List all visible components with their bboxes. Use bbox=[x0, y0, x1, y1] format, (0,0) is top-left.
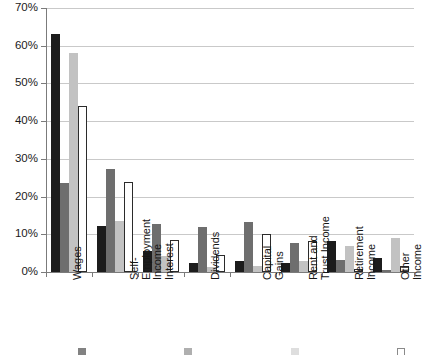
bar-group bbox=[230, 8, 276, 272]
y-tick-label: 0% bbox=[0, 266, 38, 278]
bar-group bbox=[184, 8, 230, 272]
x-category-label: Capital Gains bbox=[262, 246, 285, 280]
bar bbox=[189, 263, 198, 272]
x-category-label: Wages bbox=[72, 246, 84, 280]
legend-swatch bbox=[397, 348, 405, 355]
x-category-label: Retirement Income bbox=[354, 226, 377, 280]
bar bbox=[198, 227, 207, 272]
bar bbox=[382, 270, 391, 272]
bar bbox=[290, 243, 299, 272]
chart-legend bbox=[78, 348, 408, 355]
y-tick-label: 60% bbox=[0, 40, 38, 52]
legend-item bbox=[291, 348, 302, 355]
bar bbox=[60, 183, 69, 272]
legend-item bbox=[78, 348, 89, 355]
x-tick-mark bbox=[184, 272, 185, 277]
x-category-label: Rent and Trust Income bbox=[308, 216, 331, 280]
bar bbox=[106, 169, 115, 272]
x-category-label: Other Income bbox=[400, 244, 423, 280]
bar bbox=[115, 221, 124, 272]
bar-group bbox=[46, 8, 92, 272]
y-tick-label: 50% bbox=[0, 77, 38, 89]
bar bbox=[235, 261, 244, 272]
legend-item bbox=[184, 348, 195, 355]
legend-swatch bbox=[291, 348, 299, 355]
x-tick-mark bbox=[230, 272, 231, 277]
legend-item bbox=[397, 348, 408, 355]
x-category-label: Self- Employment Income bbox=[129, 219, 164, 280]
y-tick-label: 10% bbox=[0, 228, 38, 240]
bar bbox=[97, 226, 106, 272]
legend-swatch bbox=[184, 348, 192, 355]
bar bbox=[336, 260, 345, 272]
x-tick-mark bbox=[92, 272, 93, 277]
legend-swatch bbox=[78, 348, 86, 355]
bar bbox=[69, 53, 78, 272]
x-tick-mark bbox=[46, 272, 47, 277]
y-tick-label: 70% bbox=[0, 2, 38, 14]
x-category-label: Dividends bbox=[210, 232, 222, 280]
y-tick-label: 20% bbox=[0, 191, 38, 203]
y-tick-label: 30% bbox=[0, 153, 38, 165]
bar bbox=[51, 34, 60, 272]
x-category-label: Interest bbox=[164, 243, 176, 280]
bar bbox=[244, 222, 253, 272]
y-tick-label: 40% bbox=[0, 115, 38, 127]
